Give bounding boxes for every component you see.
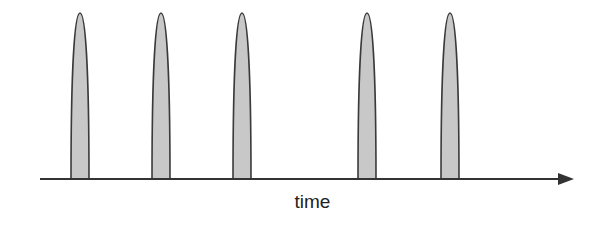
spikes [71,13,459,179]
spike-3 [233,13,251,179]
axis-label: time [0,191,613,213]
spike-2 [152,13,170,179]
spike-5 [441,13,459,179]
spike-4 [358,13,376,179]
spike-1 [71,13,89,179]
arrowhead-icon [558,173,574,185]
